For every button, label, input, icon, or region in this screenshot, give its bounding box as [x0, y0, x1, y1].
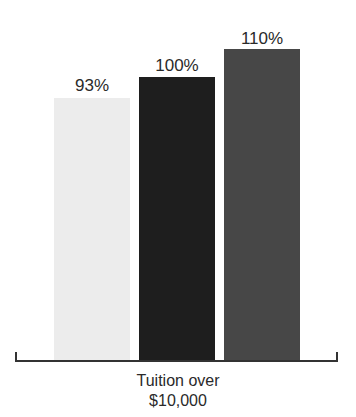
- category-label-line-2: $10,000: [0, 391, 356, 411]
- bar-series-3: [224, 49, 300, 360]
- bar-chart: 93% 100% 110% Tuition over $10,000: [0, 0, 356, 417]
- x-axis-line: [16, 360, 337, 362]
- bar-series-2: [139, 77, 215, 360]
- value-label-series-1: 93%: [47, 76, 137, 96]
- value-label-series-2: 100%: [132, 56, 222, 76]
- bar-series-1: [54, 98, 130, 360]
- category-label-line-1: Tuition over: [0, 371, 356, 391]
- value-label-series-3: 110%: [217, 29, 307, 49]
- x-axis-tick-left: [15, 352, 17, 362]
- x-axis-tick-right: [336, 352, 338, 362]
